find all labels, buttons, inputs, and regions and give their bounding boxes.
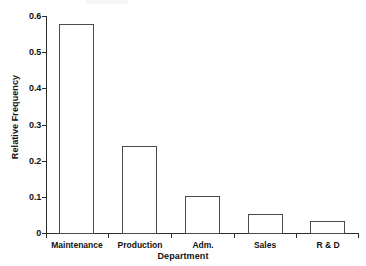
- x-tick-mark-3: [234, 233, 235, 238]
- bar-production: [122, 146, 157, 234]
- y-tick-mark-0.6: [42, 16, 47, 17]
- y-tick-mark-0.3: [42, 125, 47, 126]
- y-tick-label-0.6: 0.6: [12, 12, 41, 21]
- x-tick-mark-4: [296, 233, 297, 238]
- x-tick-mark-5: [358, 233, 359, 238]
- y-tick-mark-0.4: [42, 88, 47, 89]
- x-tick-mark-1: [108, 233, 109, 238]
- y-tick-mark-0.1: [42, 197, 47, 198]
- y-axis-title: Relative Frequency: [10, 57, 20, 177]
- y-tick-mark-0.2: [42, 161, 47, 162]
- bar-maintenance: [59, 24, 94, 234]
- y-tick-label-0: 0: [12, 229, 41, 238]
- x-axis-title: Department: [0, 251, 366, 261]
- x-tick-label-r-and-d: R & D: [291, 240, 365, 250]
- relative-frequency-bar-chart: 0.6 0.5 0.4 0.3 0.2 0.1 0 Maintenance Pr…: [0, 0, 366, 266]
- x-tick-mark-0: [46, 233, 47, 238]
- x-tick-mark-2: [171, 233, 172, 238]
- y-tick-label-0.1: 0.1: [12, 193, 41, 202]
- bar-adm: [185, 196, 220, 234]
- y-tick-mark-0.5: [42, 52, 47, 53]
- cropped-title-artifact: [86, 0, 128, 4]
- bar-sales: [248, 214, 283, 234]
- bar-r-and-d: [310, 221, 345, 234]
- y-tick-label-0.5: 0.5: [12, 48, 41, 57]
